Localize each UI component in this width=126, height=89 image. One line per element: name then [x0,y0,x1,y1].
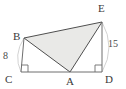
measure-label-BC: 8 [3,51,8,61]
vertex-label-D: D [105,74,113,85]
right-angle-at-D-icon [95,65,102,72]
vertex-label-C: C [5,74,12,85]
right-angle-at-C-icon [21,65,28,72]
vertex-label-A: A [66,76,74,87]
geometry-figure: B C A D E 8 15 [0,0,126,89]
measure-label-ED: 15 [108,39,118,49]
vertex-label-E: E [98,3,105,14]
arc-left-BC-icon [18,38,24,72]
triangle-BEA [24,22,102,72]
vertex-label-B: B [13,31,20,42]
